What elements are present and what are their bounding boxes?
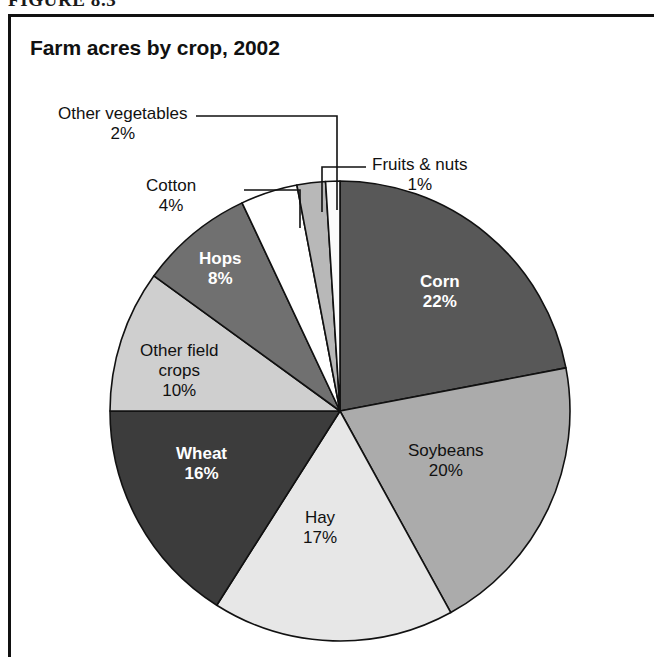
- slice-label-hops: Hops 8%: [199, 249, 242, 289]
- callout-other-vegetables-name: Other vegetables: [58, 104, 187, 123]
- chart-title: Farm acres by crop, 2002: [30, 36, 280, 60]
- slice-label-hops-name: Hops: [199, 249, 242, 268]
- slice-label-other-field-crops-name1: Other field: [140, 341, 218, 360]
- slice-label-other-field-crops-pct: 10%: [140, 381, 218, 401]
- slice-label-hay: Hay 17%: [303, 508, 337, 548]
- slice-label-hay-pct: 17%: [303, 528, 337, 548]
- figure-caption: FIGURE 8.3: [8, 0, 116, 11]
- callout-cotton: Cotton 4%: [146, 176, 196, 215]
- callout-cotton-pct: 4%: [146, 196, 196, 216]
- slice-label-soybeans-pct: 20%: [408, 461, 484, 481]
- slice-label-hops-pct: 8%: [199, 269, 242, 289]
- callout-other-vegetables: Other vegetables 2%: [58, 104, 187, 143]
- callout-fruits-nuts-pct: 1%: [372, 175, 467, 195]
- slice-label-corn-pct: 22%: [420, 292, 460, 312]
- callout-fruits-nuts: Fruits & nuts 1%: [372, 155, 467, 194]
- slice-label-corn-name: Corn: [420, 272, 460, 291]
- slice-label-other-field-crops-name2: crops: [140, 361, 218, 381]
- slice-label-soybeans: Soybeans 20%: [408, 441, 484, 481]
- slice-label-wheat-pct: 16%: [176, 464, 227, 484]
- figure-page: FIGURE 8.3 Farm acres by crop, 2002 Othe…: [0, 0, 659, 659]
- callout-fruits-nuts-name: Fruits & nuts: [372, 155, 467, 174]
- slice-label-hay-name: Hay: [305, 508, 335, 527]
- callout-other-vegetables-pct: 2%: [58, 124, 187, 144]
- slice-label-soybeans-name: Soybeans: [408, 441, 484, 460]
- slice-label-corn: Corn 22%: [420, 272, 460, 312]
- slice-label-other-field-crops: Other field crops 10%: [140, 341, 218, 401]
- slice-label-wheat-name: Wheat: [176, 444, 227, 463]
- callout-cotton-name: Cotton: [146, 176, 196, 195]
- slice-label-wheat: Wheat 16%: [176, 444, 227, 484]
